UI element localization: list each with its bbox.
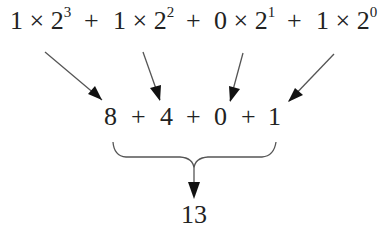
value-8: 8: [104, 102, 117, 132]
arrow-icon: [229, 53, 243, 102]
binary-conversion-diagram: 1 × 23 + 1 × 22 + 0 × 21 + 1 × 20: [0, 0, 386, 238]
value-4: 4: [160, 102, 173, 132]
arrow-icon: [45, 52, 102, 100]
arrow-icon: [288, 54, 334, 102]
arrow-icon: [143, 52, 161, 101]
plus-sign: +: [241, 102, 256, 132]
value-1: 1: [268, 102, 281, 132]
result-value: 13: [181, 200, 207, 230]
curly-brace-icon: [113, 142, 276, 168]
arrow-down-icon: [188, 168, 200, 199]
value-0: 0: [214, 102, 227, 132]
plus-sign: +: [131, 102, 146, 132]
plus-sign: +: [186, 102, 201, 132]
